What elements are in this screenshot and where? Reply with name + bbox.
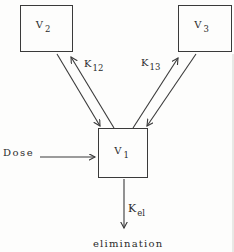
kel-symbol: K: [128, 202, 136, 215]
rate-constant-kel-label: Kel: [128, 202, 144, 215]
kel-subscript: el: [137, 208, 145, 218]
compartment-v3-symbol: V: [194, 19, 202, 30]
compartment-v1-subscript: 1: [123, 150, 129, 160]
compartment-v1-box: V1: [98, 128, 148, 178]
compartment-v2-label: V2: [36, 19, 50, 30]
rate-constant-k13-label: K13: [141, 57, 159, 68]
dose-label: Dose: [3, 147, 34, 158]
compartment-v3-box: V3: [178, 5, 232, 52]
compartment-v3-label: V3: [194, 19, 208, 30]
k12-subscript: 12: [92, 63, 103, 73]
compartment-model-diagram: V2 V3 V1 K12 K13 Kel Dose elimination: [0, 0, 234, 252]
k12-symbol: K: [84, 58, 91, 69]
rate-constant-k12-label: K12: [84, 58, 102, 69]
compartment-v1-label: V1: [114, 145, 128, 156]
compartment-v2-symbol: V: [36, 19, 44, 30]
k13-subscript: 13: [149, 62, 160, 72]
compartment-v2-box: V2: [20, 5, 73, 52]
compartment-v3-subscript: 3: [203, 24, 209, 34]
compartment-v2-subscript: 2: [45, 24, 51, 34]
k13-symbol: K: [141, 57, 148, 68]
elimination-label: elimination: [93, 238, 163, 249]
compartment-v1-symbol: V: [114, 145, 122, 156]
